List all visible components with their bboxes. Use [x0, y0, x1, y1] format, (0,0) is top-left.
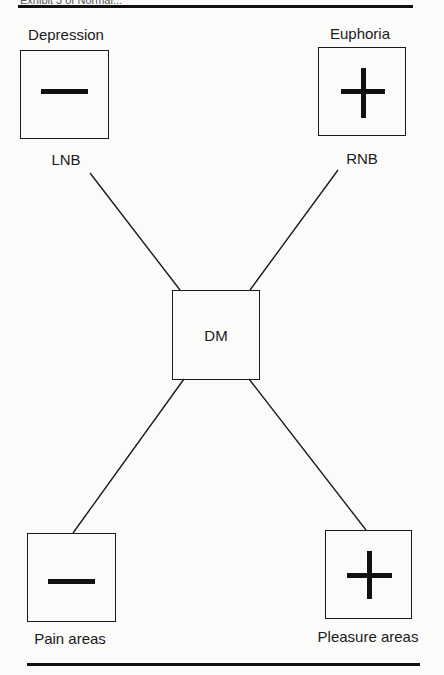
- pain-areas-label: Pain areas: [34, 630, 106, 647]
- edge-dm-pain: [73, 379, 184, 533]
- plus-icon-vertical: [367, 551, 372, 599]
- euphoria-box: [318, 47, 406, 136]
- dm-box: DM: [172, 290, 260, 380]
- plus-icon-vertical: [361, 68, 366, 118]
- depression-box: [20, 50, 109, 139]
- bottom-rule: [27, 663, 420, 666]
- edge-dm-pleasure: [249, 379, 366, 530]
- euphoria-title: Euphoria: [330, 25, 390, 42]
- minus-icon: [48, 579, 95, 584]
- minus-icon: [41, 89, 88, 94]
- pain-box: [27, 533, 116, 622]
- rnb-label: RNB: [346, 150, 378, 167]
- lnb-label: LNB: [51, 151, 80, 168]
- pleasure-areas-label: Pleasure areas: [318, 628, 419, 645]
- edge-lnb-dm: [90, 173, 180, 290]
- depression-title: Depression: [28, 26, 104, 43]
- pleasure-box: [325, 530, 412, 619]
- dm-label: DM: [173, 327, 259, 344]
- edge-rnb-dm: [250, 170, 338, 290]
